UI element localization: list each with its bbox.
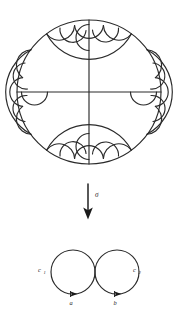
arc-top-small-3 (103, 26, 131, 41)
arc-right-petal-2 (131, 92, 157, 105)
sigma-arrow: σ (83, 184, 99, 220)
label-c2-subscript: 2 (138, 270, 141, 275)
label-c2: c 2 (133, 266, 141, 275)
figure-root: σ c 1 c 2 a b (0, 0, 177, 315)
sigma-label: σ (95, 191, 99, 199)
arc-bottom-petal-1 (60, 142, 86, 156)
label-point-b: b (113, 299, 116, 306)
label-c2-letter: c (133, 266, 136, 273)
arc-left-petal-2 (22, 92, 48, 105)
two-tangent-circles: c 1 c 2 a b (38, 250, 141, 306)
poincare-disk (6, 20, 173, 164)
label-point-a: a (69, 299, 72, 306)
figure-canvas: σ c 1 c 2 a b (0, 0, 177, 315)
label-c1-subscript: 1 (43, 270, 45, 275)
label-c1-letter: c (38, 266, 41, 273)
label-c1: c 1 (38, 266, 46, 275)
arc-top-petal-1 (60, 28, 86, 42)
arc-bottom-small-3 (103, 144, 131, 159)
circle-c1 (51, 250, 95, 294)
